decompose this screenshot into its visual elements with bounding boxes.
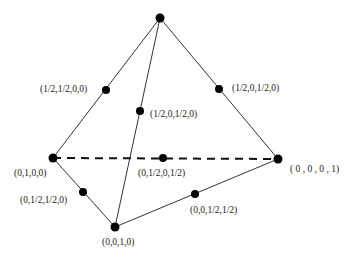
label-half-0-half-0-right: (1/2,0,1/2,0) <box>232 84 279 94</box>
label-half-half-0-0: (1/2,1/2,0,0) <box>40 85 87 95</box>
tetrahedron-diagram <box>0 0 351 259</box>
label-0-0-half-half: (0,0,1/2,1/2) <box>190 206 237 216</box>
label-0010: (0,0,1,0) <box>102 238 134 248</box>
label-0001: ( 0 , 0 , 0 , 1) <box>290 165 339 175</box>
label-half-0-half-0-mid: (1/2,0,1/2,0) <box>150 110 197 120</box>
vertex-0100 <box>49 154 58 163</box>
vertex-top <box>156 14 165 23</box>
vertex-0001 <box>274 155 283 164</box>
midpoint-half-0-half-0-mid <box>136 107 144 115</box>
midpoint-half-half-0-0 <box>102 86 110 94</box>
vertex-0010 <box>111 223 120 232</box>
midpoint-0-half-half-0 <box>79 188 87 196</box>
label-0-half-0-half: (0,1/2,0,1/2) <box>138 169 185 179</box>
label-0-half-half-0: (0,1/2,1/2,0) <box>20 196 67 206</box>
midpoint-0-half-0-half <box>159 154 167 162</box>
label-0100: (0,1,0,0) <box>14 169 46 179</box>
midpoint-half-0-half-0-right <box>215 85 223 93</box>
midpoint-0-0-half-half <box>191 190 199 198</box>
edge-top-bottom <box>115 18 160 227</box>
